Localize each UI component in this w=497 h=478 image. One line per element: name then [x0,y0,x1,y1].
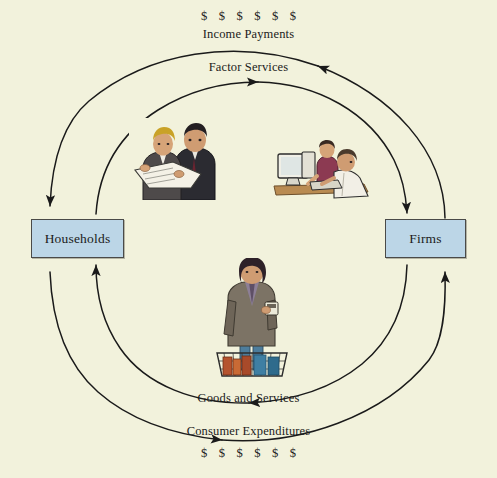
goods-and-services-label: Goods and Services [0,392,497,405]
income-payments-money-symbols: $ $ $ $ $ $ [0,10,497,23]
factor-services-label: Factor Services [0,61,497,74]
consumer-expenditures-label: Consumer Expenditures [0,425,497,438]
households-illustration [129,118,222,200]
two-businessmen-reviewing-documents-icon [129,118,222,200]
consumer-expenditures-money-symbols: $ $ $ $ $ $ [0,447,497,460]
arc-consumer-expenditures-left [50,272,222,440]
firms-illustration [272,140,370,202]
woman-shopper-with-basket-icon [213,258,291,380]
two-office-workers-at-computer-icon [272,140,370,202]
households-box: Households [31,219,124,258]
firms-label: Firms [409,231,442,247]
firms-box: Firms [385,219,466,258]
households-label: Households [45,231,111,247]
consumer-illustration [213,258,291,380]
circular-flow-diagram: Households Firms $ $ $ $ $ $ Income Paym… [0,0,497,478]
income-payments-label: Income Payments [0,28,497,41]
